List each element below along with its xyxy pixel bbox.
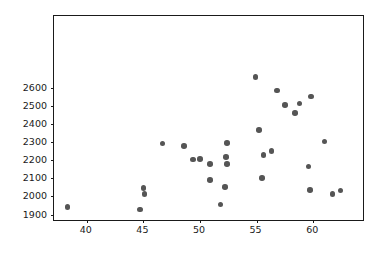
y-axis-tick	[51, 196, 54, 197]
scatter-point	[307, 187, 313, 193]
scatter-point	[207, 161, 213, 167]
scatter-point	[224, 140, 230, 146]
scatter-point	[338, 188, 344, 194]
scatter-point	[142, 191, 148, 197]
scatter-point	[292, 110, 298, 116]
scatter-point	[274, 88, 280, 94]
scatter-point	[137, 207, 143, 213]
y-axis-tick-label: 2100	[23, 172, 47, 183]
y-axis-tick-label: 2200	[23, 154, 47, 165]
scatter-point	[224, 161, 230, 167]
plot-axes	[53, 15, 364, 221]
scatter-point	[306, 164, 312, 170]
scatter-point	[160, 141, 166, 147]
y-axis-tick-label: 2300	[23, 136, 47, 147]
y-axis-tick-label: 2400	[23, 117, 47, 128]
scatter-point	[207, 177, 213, 183]
scatter-point	[223, 154, 229, 160]
scatter-point	[222, 184, 228, 190]
y-axis-tick	[51, 142, 54, 143]
x-axis-tick-label: 60	[306, 224, 318, 235]
scatter-point	[269, 148, 275, 154]
x-axis-tick-label: 40	[80, 224, 92, 235]
y-axis-tick	[51, 178, 54, 179]
scatter-point	[261, 152, 267, 158]
x-axis-tick-label: 50	[193, 224, 205, 235]
y-axis-tick	[51, 88, 54, 89]
scatter-point	[297, 101, 303, 107]
scatter-point	[330, 191, 336, 197]
x-axis-tick	[257, 220, 258, 223]
y-axis-tick-label: 1900	[23, 208, 47, 219]
scatter-point	[190, 157, 196, 163]
y-axis-tick	[51, 106, 54, 107]
scatter-point	[256, 127, 262, 133]
scatter-point	[259, 175, 265, 181]
x-axis-tick	[87, 220, 88, 223]
y-axis-tick	[51, 124, 54, 125]
y-axis-tick	[51, 160, 54, 161]
x-axis-tick	[313, 220, 314, 223]
x-axis-tick-label: 55	[250, 224, 262, 235]
y-axis-tick-label: 2600	[23, 81, 47, 92]
scatter-point	[141, 185, 147, 191]
scatter-point	[65, 204, 71, 210]
x-axis-tick-label: 45	[136, 224, 148, 235]
y-axis-tick-label: 2000	[23, 190, 47, 201]
scatter-plot-figure: 4045505560190020002100220023002400250026…	[0, 0, 383, 256]
scatter-point	[218, 202, 224, 208]
scatter-point	[181, 143, 187, 149]
scatter-point	[322, 139, 328, 145]
x-axis-tick	[200, 220, 201, 223]
plot-area	[54, 16, 363, 220]
scatter-point	[282, 102, 288, 108]
scatter-point	[253, 74, 259, 80]
scatter-point	[197, 156, 203, 162]
y-axis-tick-label: 2500	[23, 99, 47, 110]
x-axis-tick	[143, 220, 144, 223]
y-axis-tick	[51, 215, 54, 216]
scatter-point	[308, 94, 314, 100]
